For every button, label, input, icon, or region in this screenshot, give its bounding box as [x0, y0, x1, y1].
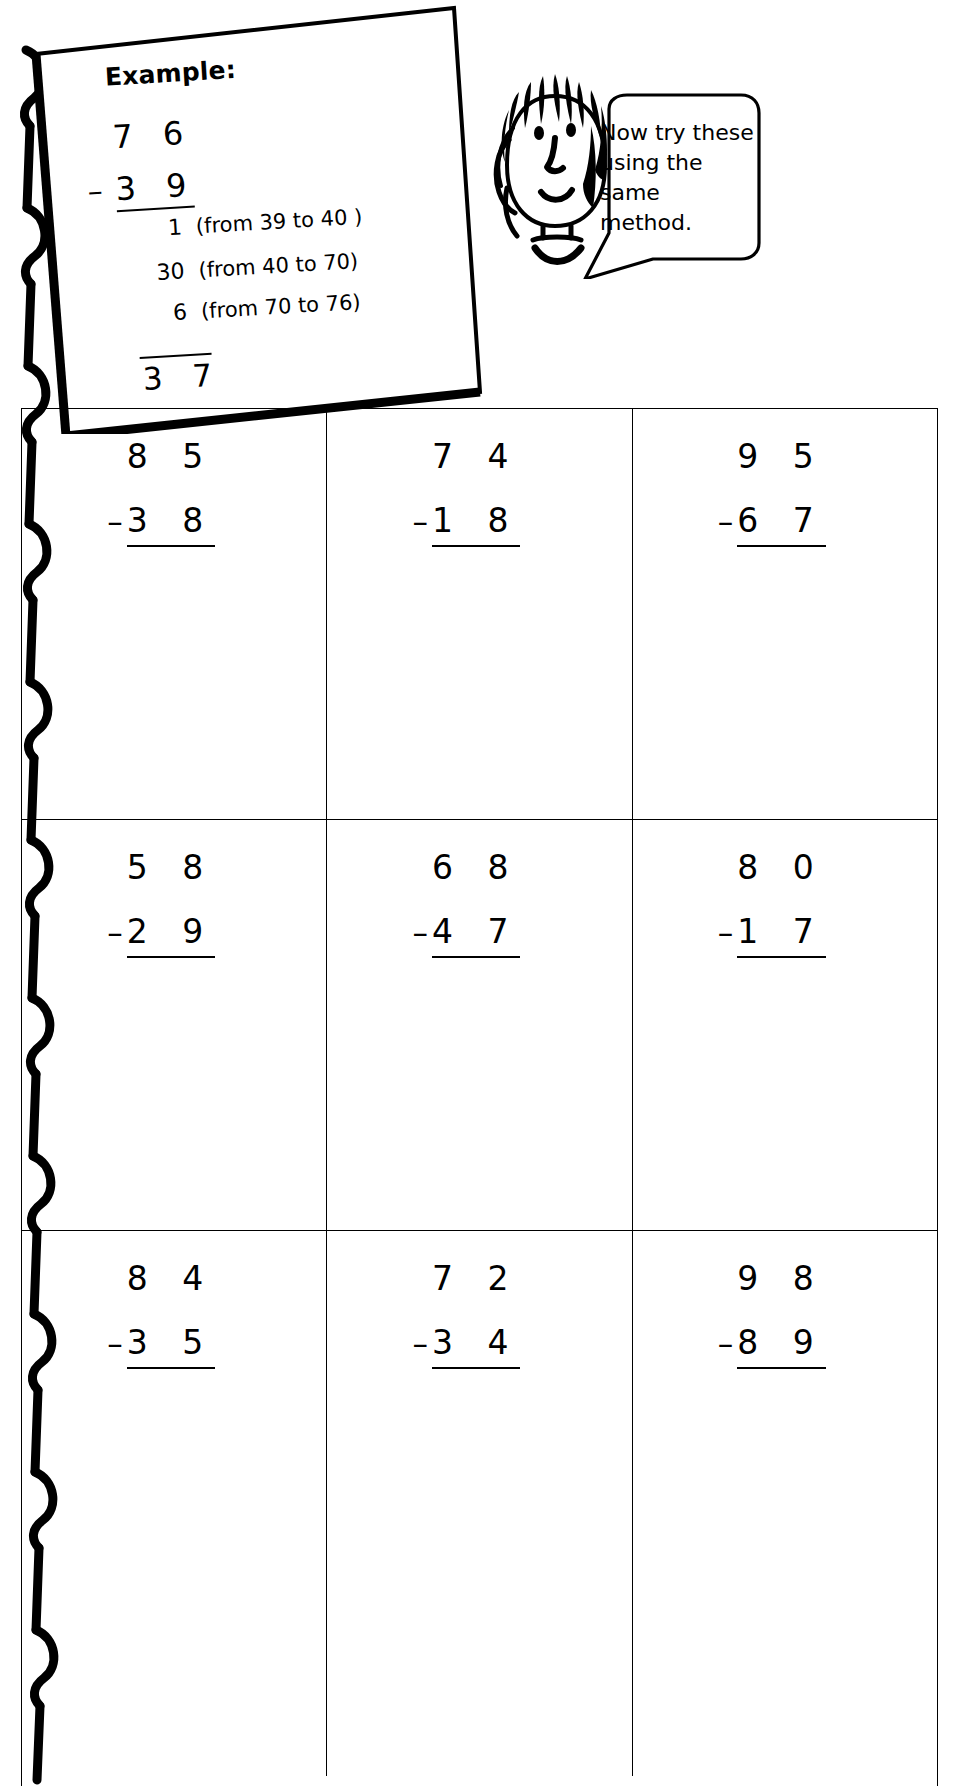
problem-cell[interactable]: 9 8 – 8 9: [633, 1231, 937, 1776]
minus-operator: –: [412, 1323, 428, 1363]
subtraction-sum: 7 2 – 3 4: [404, 1259, 554, 1369]
subtrahend-row: – 1 8: [404, 501, 554, 547]
minuend: 8 5: [99, 437, 249, 477]
worksheet-page: Example: 7 6 – 3 9 1(from 39 to 40 ) 30(…: [0, 0, 959, 1786]
subtraction-sum: 8 4 – 3 5: [99, 1259, 249, 1369]
example-step: 30(from 40 to 70): [142, 248, 359, 286]
example-step: 1(from 39 to 40 ): [139, 204, 363, 242]
problem-row: 8 5 – 3 8 7 4 – 1 8 9 5: [22, 409, 937, 820]
minuend: 8 0: [710, 848, 860, 888]
example-card: Example: 7 6 – 3 9 1(from 39 to 40 ) 30(…: [22, 2, 484, 434]
problem-cell[interactable]: 7 4 – 1 8: [327, 409, 632, 819]
subtrahend-row: – 6 7: [710, 501, 860, 547]
minuend: 5 8: [99, 848, 249, 888]
problem-cell[interactable]: 6 8 – 4 7: [327, 820, 632, 1230]
example-title: Example:: [104, 55, 237, 92]
minus-operator: –: [718, 912, 734, 952]
subtrahend-row: – 8 9: [710, 1323, 860, 1369]
minus-operator: –: [718, 1323, 734, 1363]
subtrahend: 4 7: [432, 912, 520, 958]
speech-bubble-text: Now try these using the same method.: [600, 118, 756, 238]
example-step-value: 1: [139, 214, 182, 241]
example-step-note: (from 39 to 40 ): [181, 205, 363, 240]
example-step-value: 6: [144, 299, 187, 326]
minus-operator: –: [412, 912, 428, 952]
subtraction-sum: 8 0 – 1 7: [710, 848, 860, 958]
problem-cell[interactable]: 8 0 – 1 7: [633, 820, 937, 1230]
subtrahend: 1 7: [737, 912, 825, 958]
subtraction-sum: 5 8 – 2 9: [99, 848, 249, 958]
minuend: 8 4: [99, 1259, 249, 1299]
subtraction-sum: 9 5 – 6 7: [710, 437, 860, 547]
problem-cell[interactable]: 5 8 – 2 9: [22, 820, 327, 1230]
subtrahend-row: – 4 7: [404, 912, 554, 958]
minuend: 7 2: [404, 1259, 554, 1299]
example-step-note: (from 40 to 70): [184, 249, 359, 283]
subtrahend: 3 4: [432, 1323, 520, 1369]
example-step: 6(from 70 to 76): [144, 289, 361, 327]
minuend: 9 5: [710, 437, 860, 477]
minus-operator: –: [107, 912, 123, 952]
subtrahend: 3 8: [127, 501, 215, 547]
subtraction-sum: 9 8 – 8 9: [710, 1259, 860, 1369]
example-subtrahend: 3 9: [114, 165, 197, 208]
subtrahend-row: – 3 5: [99, 1323, 249, 1369]
example-operator: –: [87, 173, 104, 209]
subtraction-sum: 6 8 – 4 7: [404, 848, 554, 958]
minus-operator: –: [412, 501, 428, 541]
minuend: 9 8: [710, 1259, 860, 1299]
problem-cell[interactable]: 9 5 – 6 7: [633, 409, 937, 819]
subtrahend-row: – 3 8: [99, 501, 249, 547]
example-step-note: (from 70 to 76): [186, 290, 361, 324]
problem-cell[interactable]: 7 2 – 3 4: [327, 1231, 632, 1776]
example-minuend: 7 6: [111, 114, 194, 157]
example-step-value: 30: [142, 258, 185, 285]
minuend: 6 8: [404, 848, 554, 888]
minuend: 7 4: [404, 437, 554, 477]
subtrahend-row: – 1 7: [710, 912, 860, 958]
subtrahend: 6 7: [737, 501, 825, 547]
minus-operator: –: [107, 501, 123, 541]
subtraction-sum: 7 4 – 1 8: [404, 437, 554, 547]
subtrahend: 8 9: [737, 1323, 825, 1369]
problem-row: 5 8 – 2 9 6 8 – 4 7 8 0: [22, 820, 937, 1231]
subtrahend-row: – 2 9: [99, 912, 249, 958]
subtrahend: 1 8: [432, 501, 520, 547]
subtrahend: 3 5: [127, 1323, 215, 1369]
problem-cell[interactable]: 8 4 – 3 5: [22, 1231, 327, 1776]
example-answer: 3 7: [142, 356, 223, 397]
problem-row: 8 4 – 3 5 7 2 – 3 4 9 8: [22, 1231, 937, 1776]
subtrahend-row: – 3 4: [404, 1323, 554, 1369]
problem-cell[interactable]: 8 5 – 3 8: [22, 409, 327, 819]
subtraction-sum: 8 5 – 3 8: [99, 437, 249, 547]
subtrahend: 2 9: [127, 912, 215, 958]
minus-operator: –: [718, 501, 734, 541]
minus-operator: –: [107, 1323, 123, 1363]
problems-table: 8 5 – 3 8 7 4 – 1 8 9 5: [21, 408, 938, 1786]
